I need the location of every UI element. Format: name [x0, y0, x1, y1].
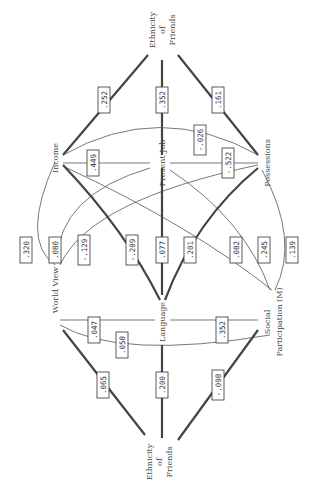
node-eof-bottom-2: of	[155, 457, 164, 466]
svg-text:.058: .058	[118, 335, 127, 354]
node-possessions: Possessions	[263, 139, 272, 187]
node-income: Income	[51, 143, 60, 173]
node-eof-top-2: of	[158, 25, 167, 34]
svg-text:.449: .449	[89, 154, 98, 172]
coef-job-language: .077	[156, 237, 168, 263]
node-social-participation-1: Social	[263, 309, 272, 334]
coef-job-eof: .352	[156, 87, 168, 113]
node-world-view: World View	[51, 267, 60, 313]
coef-income-job: .449	[87, 150, 99, 176]
svg-text:.200: .200	[158, 375, 167, 394]
coef-income-worldview: .320	[20, 237, 32, 263]
svg-text:.047: .047	[90, 321, 99, 339]
node-eof-top-1: Ethnicity	[148, 11, 157, 48]
svg-text:.077: .077	[158, 241, 167, 259]
coef-possessions-socpart: .139	[286, 237, 298, 263]
node-eof-top-3: Friends	[168, 14, 177, 45]
svg-text:.161: .161	[214, 91, 223, 109]
svg-text:-.098: -.098	[214, 373, 223, 396]
coef-worldview-possessions: -.129	[78, 235, 90, 265]
svg-text:.082: .082	[232, 241, 241, 259]
svg-text:.201: .201	[186, 241, 195, 259]
svg-text:.065: .065	[99, 376, 108, 394]
coef-worldview-eof: .065	[97, 372, 109, 398]
node-eof-bottom-3: Friends	[165, 446, 174, 477]
svg-text:-.026: -.026	[196, 128, 205, 151]
svg-text:.080: .080	[51, 240, 60, 259]
coef-language-socpart: .352	[216, 317, 228, 343]
node-social-participation-2: Participation (M)	[275, 287, 284, 356]
svg-text:.245: .245	[260, 241, 269, 259]
path-diagram: .252 .352 .161 -.026 .449 -.522 .320 .0	[0, 0, 317, 489]
svg-text:.352: .352	[158, 91, 167, 109]
svg-text:-.522: -.522	[224, 152, 233, 175]
svg-text:.139: .139	[288, 241, 297, 259]
coef-worldview-job: .080	[49, 237, 61, 263]
svg-text:-.209: -.209	[128, 239, 137, 262]
node-eof-bottom-1: Ethnicity	[145, 443, 154, 480]
coef-income-eof: .252	[98, 87, 110, 113]
svg-text:.320: .320	[22, 240, 31, 259]
coef-socpart-eof: -.098	[212, 370, 224, 400]
coef-language-possessions: .201	[184, 237, 196, 263]
coef-income-socpart: .082	[230, 237, 242, 263]
coef-job-possessions: -.522	[222, 148, 234, 178]
coef-job-possessions-curve: -.026	[194, 125, 206, 155]
node-present-job: Present Job	[158, 140, 167, 187]
node-language: Language	[158, 302, 167, 342]
coefficients: .252 .352 .161 -.026 .449 -.522 .320 .0	[20, 87, 298, 400]
coef-job-socpart: .245	[258, 237, 270, 263]
svg-text:.352: .352	[218, 321, 227, 339]
coef-income-language: -.209	[126, 235, 138, 265]
coef-language-eof: .200	[156, 372, 168, 398]
svg-text:-.129: -.129	[80, 239, 89, 262]
coef-worldview-language: .047	[88, 317, 100, 343]
coef-possessions-eof: .161	[212, 87, 224, 113]
coef-worldview-socpart-curve: .058	[116, 332, 128, 358]
svg-text:.252: .252	[100, 91, 109, 109]
